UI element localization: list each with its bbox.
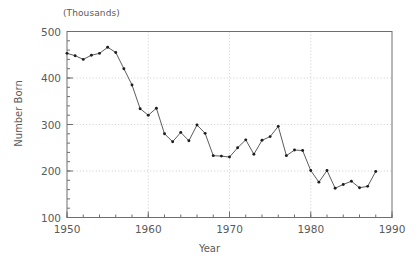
data-point [228, 156, 231, 159]
data-point [147, 114, 150, 117]
x-tick-label: 1990 [379, 223, 406, 235]
data-point [82, 58, 85, 61]
x-tick-label: 1960 [135, 223, 162, 235]
y-tick-labels: 100200300400500 [41, 26, 61, 224]
data-point [106, 46, 109, 49]
data-point [326, 169, 329, 172]
data-point [98, 52, 101, 55]
data-point [261, 139, 264, 142]
data-point [301, 149, 304, 152]
x-axis-title: Year [0, 243, 419, 254]
x-tick-label: 1980 [297, 223, 324, 235]
data-point [334, 187, 337, 190]
data-point [366, 185, 369, 188]
data-point [74, 54, 77, 57]
data-point [171, 140, 174, 143]
data-point [114, 51, 117, 54]
data-point [66, 52, 69, 55]
data-point [309, 169, 312, 172]
data-point [244, 138, 247, 141]
data-point [252, 153, 255, 156]
plot-area: 19501960197019801990 100200300400500 [0, 0, 419, 273]
data-point [204, 132, 207, 135]
data-point [196, 124, 199, 127]
y-axis-title: Number Born [13, 54, 24, 174]
data-point [293, 149, 296, 152]
y-tick-label: 100 [41, 212, 61, 224]
data-point [139, 107, 142, 110]
series-markers [66, 46, 378, 190]
data-point [212, 154, 215, 157]
data-point [277, 125, 280, 128]
data-point [342, 183, 345, 186]
data-point [269, 135, 272, 138]
y-tick-label: 400 [41, 72, 61, 84]
data-point [90, 54, 93, 57]
data-point [374, 170, 377, 173]
data-point [187, 139, 190, 142]
data-point [122, 67, 125, 70]
gridlines [67, 32, 392, 218]
data-point [179, 131, 182, 134]
data-point [350, 180, 353, 183]
series-line-number-born [67, 47, 376, 188]
x-tick-label: 1970 [216, 223, 243, 235]
data-point [358, 186, 361, 189]
y-tick-label: 500 [41, 26, 61, 38]
x-tick-label: 1950 [54, 223, 81, 235]
y-tick-label: 200 [41, 165, 61, 177]
y-tick-label: 300 [41, 119, 61, 131]
data-point [163, 132, 166, 135]
data-point [236, 146, 239, 149]
data-point [155, 107, 158, 110]
x-tick-labels: 19501960197019801990 [54, 223, 406, 235]
data-point [285, 154, 288, 157]
data-point [131, 84, 134, 87]
y-axis-unit-note: (Thousands) [63, 8, 120, 18]
data-point [317, 181, 320, 184]
chart-figure: (Thousands) Number Born Year 19501960197… [0, 0, 419, 273]
data-point [220, 155, 223, 158]
